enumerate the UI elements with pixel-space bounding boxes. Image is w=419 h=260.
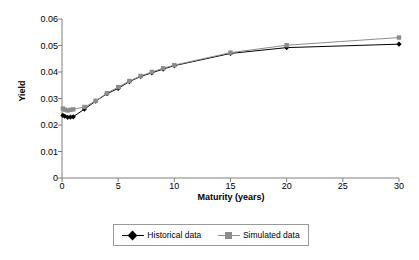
series-line-simulated [63,38,399,111]
legend-key-simulated [218,231,240,240]
data-point-marker [94,99,98,103]
data-point-marker [396,42,401,47]
legend-item-simulated: Simulated data [218,230,300,240]
data-point-marker [71,107,75,111]
legend-key-historical [122,231,144,240]
yield-curve-chart: Yield 00.010.020.030.040.050.06 05101520… [0,0,419,260]
data-point-marker [116,85,120,89]
data-point-marker [127,79,131,83]
legend-label-historical: Historical data [147,230,201,240]
data-point-marker [138,74,142,78]
legend-label-simulated: Simulated data [243,230,300,240]
plot-area [0,0,419,260]
data-point-marker [105,91,109,95]
diamond-marker-icon [128,230,138,240]
chart-legend: Historical data Simulated data [113,224,309,246]
legend-item-historical: Historical data [122,230,201,240]
data-point-marker [172,63,176,67]
data-point-marker [150,70,154,74]
data-point-marker [228,50,232,54]
data-point-marker [284,43,288,47]
x-axis-title: Maturity (years) [62,192,400,202]
data-point-marker [82,105,86,109]
data-point-marker [397,35,401,39]
data-point-marker [161,66,165,70]
square-marker-icon [225,232,232,239]
